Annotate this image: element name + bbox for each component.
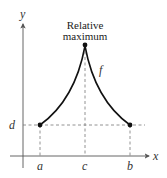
point-b-d: [128, 123, 133, 128]
function-curve-right: [85, 46, 130, 125]
annotation-line-2: maximum: [63, 30, 108, 42]
function-curve-left: [40, 46, 85, 125]
point-a-d: [38, 123, 43, 128]
tick-label-a: a: [37, 159, 43, 173]
diagram-canvas: y x a c b d f Relative maximum: [0, 0, 167, 178]
y-axis-label: y: [19, 7, 26, 21]
x-axis-label: x: [152, 149, 159, 163]
tick-label-b: b: [127, 159, 133, 173]
relative-maximum-diagram: y x a c b d f Relative maximum: [0, 0, 167, 178]
tick-label-c: c: [82, 159, 88, 173]
function-label-f: f: [99, 63, 104, 77]
point-relative-maximum: [83, 43, 88, 48]
tick-label-d: d: [9, 118, 16, 132]
